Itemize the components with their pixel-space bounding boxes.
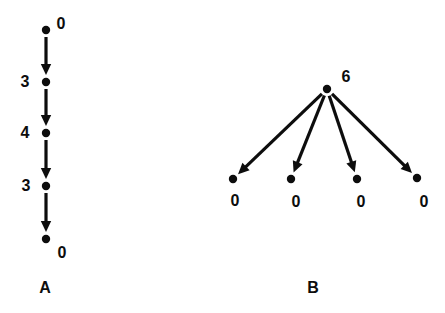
graph-node	[42, 235, 50, 243]
node-value-label: 0	[292, 194, 301, 210]
graph-node	[42, 129, 50, 137]
edge-arrowhead	[41, 221, 51, 232]
node-value-label: 3	[22, 178, 31, 194]
panel-a	[41, 26, 51, 243]
node-value-label: 0	[420, 194, 429, 210]
edge-shaft	[329, 96, 352, 164]
panel-caption-b: B	[307, 280, 319, 296]
node-value-label: 0	[57, 16, 66, 32]
node-value-label: 6	[342, 69, 351, 85]
graph-canvas	[0, 0, 445, 313]
edge-arrow	[41, 140, 51, 179]
graph-node	[323, 85, 331, 93]
edge-arrow	[41, 89, 51, 126]
graph-node	[229, 175, 237, 183]
graph-node	[353, 175, 361, 183]
edge-arrow	[332, 94, 412, 173]
graph-node	[42, 182, 50, 190]
node-value-label: 0	[58, 245, 67, 261]
graph-node	[287, 175, 295, 183]
edge-arrowhead	[346, 160, 356, 172]
edge-arrowhead	[41, 64, 51, 75]
edge-shaft	[332, 94, 405, 166]
edge-arrowhead	[41, 168, 51, 179]
node-value-label: 4	[21, 125, 30, 141]
graph-node	[413, 174, 421, 182]
node-value-label: 0	[357, 194, 366, 210]
edge-arrow	[41, 193, 51, 232]
edge-arrow	[41, 37, 51, 75]
panel-b	[229, 85, 421, 183]
graph-node	[42, 78, 50, 86]
node-value-label: 0	[231, 193, 240, 209]
node-value-label: 3	[21, 74, 30, 90]
graph-node	[42, 26, 50, 34]
panel-caption-a: A	[39, 280, 51, 296]
edge-arrow	[329, 96, 356, 173]
edge-arrowhead	[41, 115, 51, 126]
graph-figure: 03430A60000B	[0, 0, 445, 313]
